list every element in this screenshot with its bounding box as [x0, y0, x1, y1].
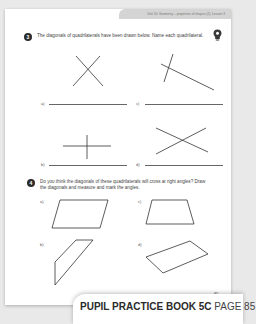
- q4a-label: a): [40, 199, 44, 204]
- q3b-answer-line[interactable]: [49, 165, 127, 166]
- q4c-trapezium[interactable]: [146, 200, 194, 224]
- q3b-diagonals-figure: [63, 135, 111, 159]
- question-4-number: 4: [27, 179, 35, 187]
- q3d-answer-line[interactable]: [145, 165, 223, 166]
- q3c-diagonals-figure: [161, 54, 217, 90]
- q4c-label: c): [138, 199, 141, 204]
- q3a-diagonals-figure: [71, 56, 107, 86]
- book-footer-tab: PUPIL PRACTICE BOOK 5C PAGE 85: [73, 294, 243, 324]
- q3a-label: a): [41, 101, 45, 106]
- q4b-label: b): [40, 242, 44, 247]
- q3c-label: c): [136, 101, 139, 106]
- book-title: PUPIL PRACTICE BOOK 5C: [80, 301, 212, 312]
- question-3-number: 3: [24, 33, 32, 41]
- q4d-label: d): [138, 242, 142, 247]
- q4a-parallelogram[interactable]: [52, 200, 108, 229]
- q3a-answer-line[interactable]: [49, 104, 127, 105]
- q3d-label: d): [136, 162, 140, 167]
- question-3-text: The diagonals of quadrilaterals have bee…: [37, 33, 207, 39]
- lightbulb-hint-icon: [213, 29, 222, 41]
- q4d-parallelogram[interactable]: [146, 241, 208, 273]
- book-page: PAGE 85: [214, 301, 255, 312]
- q3c-answer-line[interactable]: [145, 104, 223, 105]
- worksheet-page: Unit 10: Geometry – properties of shapes…: [5, 9, 231, 305]
- q4b-trapezium[interactable]: [54, 240, 94, 285]
- question-4-text: Do you think the diagonals of these quad…: [40, 179, 212, 191]
- q3d-diagonals-figure: [156, 128, 208, 154]
- unit-header: Unit 10: Geometry – properties of shapes…: [119, 9, 231, 19]
- q3b-label: b): [41, 162, 45, 167]
